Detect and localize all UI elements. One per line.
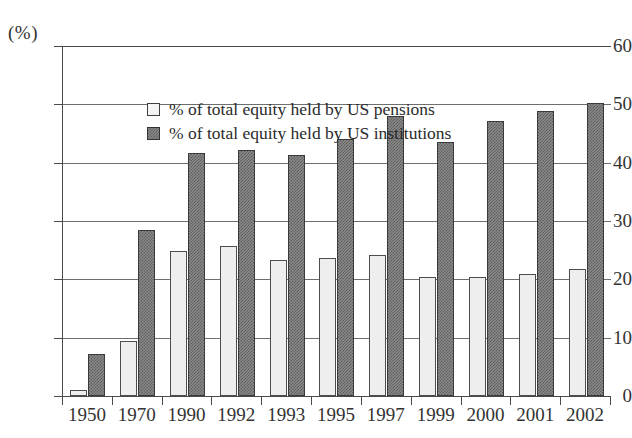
bar-group [462, 46, 512, 396]
bar-pensions-1997 [369, 255, 386, 396]
y-tick-label-50: 50 [586, 94, 632, 113]
x-axis-line [62, 396, 610, 397]
bar-pensions-2002 [569, 269, 586, 396]
x-tick-mark-6 [361, 396, 362, 405]
x-tick-mark-0 [62, 396, 63, 405]
y-axis-unit-label: (%) [8, 22, 38, 44]
bar-institutions-1990 [188, 153, 205, 396]
x-tick-mark-10 [560, 396, 561, 405]
y-tick-label-60: 60 [586, 36, 632, 55]
y-tick-mark-50 [54, 104, 63, 105]
y-tick-mark-20 [54, 279, 63, 280]
y-tick-mark-60 [54, 46, 63, 47]
x-tick-mark-9 [510, 396, 511, 405]
bar-institutions-1992 [238, 150, 255, 396]
y-tick-label-20: 20 [586, 269, 632, 288]
bar-institutions-1970 [138, 230, 155, 396]
bar-pensions-1992 [220, 246, 237, 396]
legend-label-institutions: % of total equity held by US institution… [169, 123, 451, 144]
bar-institutions-1950 [88, 354, 105, 396]
y-tick-mark-40 [54, 163, 63, 164]
bar-pensions-1990 [170, 251, 187, 396]
bar-pensions-1993 [270, 260, 287, 396]
bar-institutions-2001 [537, 111, 554, 396]
legend-item-pensions: % of total equity held by US pensions [147, 98, 451, 120]
bar-institutions-2002 [587, 103, 604, 396]
x-tick-mark-7 [411, 396, 412, 405]
y-tick-label-10: 10 [586, 328, 632, 347]
bar-chart: (%) % of total equity held by US pension… [0, 0, 632, 438]
y-tick-mark-10 [54, 338, 63, 339]
bar-institutions-1999 [437, 142, 454, 396]
x-tick-label-2002: 2002 [555, 404, 615, 426]
legend-item-institutions: % of total equity held by US institution… [147, 122, 451, 144]
x-tick-mark-5 [311, 396, 312, 405]
x-tick-mark-8 [461, 396, 462, 405]
bar-pensions-1999 [419, 277, 436, 396]
bar-institutions-2000 [487, 121, 504, 396]
legend: % of total equity held by US pensions % … [147, 98, 451, 146]
bar-pensions-1970 [120, 341, 137, 396]
bar-institutions-1995 [337, 139, 354, 396]
bar-institutions-1993 [288, 155, 305, 397]
plot-area: % of total equity held by US pensions % … [62, 46, 610, 396]
bar-pensions-2000 [469, 277, 486, 396]
legend-label-pensions: % of total equity held by US pensions [169, 99, 435, 120]
bar-pensions-1995 [319, 258, 336, 396]
bar-group [63, 46, 113, 396]
x-tick-mark-3 [211, 396, 212, 405]
y-tick-label-30: 30 [586, 211, 632, 230]
legend-swatch-light-icon [147, 103, 160, 116]
x-tick-mark-4 [261, 396, 262, 405]
bar-institutions-1997 [387, 116, 404, 396]
y-tick-mark-30 [54, 221, 63, 222]
y-tick-label-40: 40 [586, 153, 632, 172]
bar-pensions-2001 [519, 274, 536, 397]
legend-swatch-dark-icon [147, 127, 160, 140]
x-tick-mark-1 [112, 396, 113, 405]
x-tick-mark-2 [162, 396, 163, 405]
bar-group [511, 46, 561, 396]
x-tick-mark-11 [610, 396, 611, 405]
